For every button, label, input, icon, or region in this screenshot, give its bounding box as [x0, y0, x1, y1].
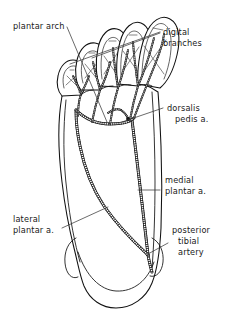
label-posterior-tibial-line2: tibial — [178, 236, 199, 246]
foot-arteries-diagram: plantar arch digital branches dorsalis p… — [0, 0, 229, 322]
label-dorsalis-pedis-line2: pedis a. — [175, 114, 208, 124]
label-medial-plantar-line2: plantar a. — [165, 186, 206, 196]
label-lateral-plantar-line1: lateral — [13, 214, 40, 224]
label-digital-branches-line2: branches — [163, 38, 202, 48]
label-lateral-plantar-line2: plantar a. — [13, 225, 54, 235]
label-medial-plantar-line1: medial — [165, 175, 194, 185]
label-dorsalis-pedis-line1: dorsalis — [167, 103, 200, 113]
sole-outline — [59, 81, 162, 308]
label-posterior-tibial-line1: posterior — [172, 225, 211, 235]
label-posterior-tibial-line3: artery — [178, 247, 204, 257]
label-digital-branches-line1: digital — [163, 27, 190, 37]
label-plantar-arch: plantar arch — [13, 21, 65, 31]
